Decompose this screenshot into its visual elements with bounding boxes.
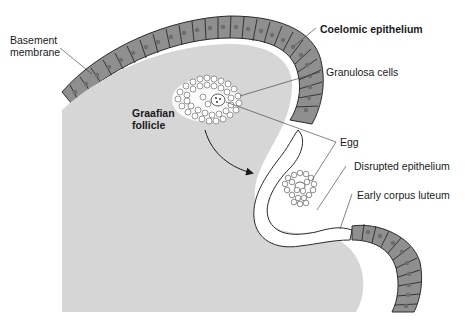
label-basement-membrane: Basement membrane [10,34,60,58]
label-granulosa-cells: Granulosa cells [326,66,398,78]
label-basement-line2: membrane [10,46,60,58]
egg [211,94,225,106]
label-graafian-line2: follicle [132,119,175,131]
released-egg-cluster [282,170,317,207]
label-coelomic-epithelium: Coelomic epithelium [320,23,423,35]
coelomic-epithelium-lower [352,224,422,312]
label-egg: Egg [340,136,359,148]
label-graafian-line1: Graafian [132,107,175,119]
label-early-corpus-luteum: Early corpus luteum [357,189,450,201]
label-disrupted-epithelium: Disrupted epithelium [354,160,450,172]
label-basement-line1: Basement [10,34,60,46]
label-graafian-follicle: Graafian follicle [132,107,175,131]
